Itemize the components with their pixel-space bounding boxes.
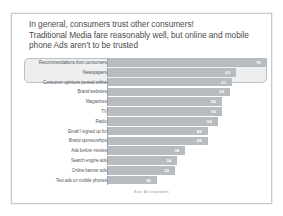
- title-line-2: Traditional Media fare reasonably well, …: [29, 30, 261, 41]
- category-label: Search engine ads: [71, 156, 107, 165]
- chart-row: Consumer opinions posted online61: [14, 78, 271, 87]
- bar-value-label: 56: [211, 97, 216, 106]
- category-label: Email I signed up for: [68, 127, 107, 136]
- chart-footnote: Base: All respondents: [134, 190, 169, 194]
- chart-row: Ads before movies38: [14, 146, 271, 155]
- bar-value-label: 78: [256, 58, 261, 67]
- title-line-3: phone Ads aren't to be trusted: [29, 40, 261, 51]
- chart-row: Magazines56: [14, 97, 271, 106]
- category-label: Text ads on mobile phones: [56, 176, 107, 185]
- bar: [108, 58, 267, 67]
- bar-value-label: 38: [174, 146, 179, 155]
- chart-row: Radio54: [14, 117, 271, 126]
- slide-title: In general, consumers trust other consum…: [29, 19, 261, 51]
- category-label: Recommendations from consumers: [39, 58, 107, 67]
- slide-canvas: In general, consumers trust other consum…: [11, 13, 272, 204]
- bar: [108, 127, 208, 136]
- category-label: Magazines: [86, 97, 107, 106]
- chart-row: Search engine ads34: [14, 156, 271, 165]
- bar-value-label: 34: [166, 156, 171, 165]
- bar-value-label: 49: [197, 127, 202, 136]
- category-label: Brand sponsorships: [69, 136, 107, 145]
- bar-value-label: 60: [219, 87, 224, 96]
- bar-value-label: 33: [164, 166, 169, 175]
- chart-row: Recommendations from consumers78: [14, 58, 271, 67]
- bar-value-label: 56: [211, 107, 216, 116]
- bar: [108, 137, 208, 146]
- chart-row: Email I signed up for49: [14, 127, 271, 136]
- chart-row: Online banner ads33: [14, 166, 271, 175]
- category-label: Consumer opinions posted online: [43, 78, 107, 87]
- title-line-1: In general, consumers trust other consum…: [29, 19, 261, 30]
- bar-value-label: 54: [207, 117, 212, 126]
- bar: [108, 68, 236, 77]
- category-label: Online banner ads: [72, 166, 107, 175]
- category-label: Ads before movies: [71, 146, 107, 155]
- chart-row: Newspapers63: [14, 68, 271, 77]
- bar-value-label: 61: [221, 78, 226, 87]
- bar: [108, 117, 218, 126]
- category-label: Brand websites: [77, 87, 106, 96]
- chart-row: Brand sponsorships49: [14, 136, 271, 145]
- category-label: Newspapers: [83, 68, 107, 77]
- bar-value-label: 24: [146, 176, 151, 185]
- chart-row: Brand websites60: [14, 87, 271, 96]
- bar: [108, 88, 230, 97]
- bar-value-label: 49: [197, 136, 202, 145]
- chart-row: Text ads on mobile phones24: [14, 176, 271, 185]
- bar: [108, 78, 232, 87]
- category-label: Radio: [96, 117, 107, 126]
- bar-chart: Recommendations from consumers78Newspape…: [14, 58, 271, 186]
- bar-value-label: 63: [225, 68, 230, 77]
- bar: [108, 97, 222, 106]
- chart-row: TV56: [14, 107, 271, 116]
- bar: [108, 107, 222, 116]
